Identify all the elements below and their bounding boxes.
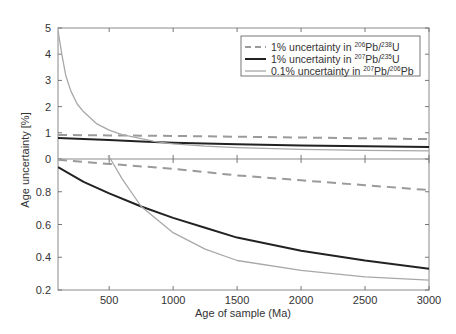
x-tick-label: 1000 [161,294,185,306]
legend: 1% uncertainty in 206Pb/238U1% uncertain… [241,36,420,77]
y-tick-label: 3 [45,74,51,86]
y-tick-label: 1 [45,127,51,139]
series-line [58,167,429,269]
y-tick-label: 0.8 [36,186,51,198]
bottom-panel-series [58,156,429,281]
x-tick-label: 3000 [417,294,441,306]
series-line [58,135,429,139]
x-tick-label: 1500 [225,294,249,306]
y-tick-label: 0.4 [36,251,51,263]
y-tick-label: 2 [45,101,51,113]
y-tick-label: 0.6 [36,219,51,231]
y-tick-label: 5 [45,22,51,34]
x-axis-title: Age of sample (Ma) [195,307,291,319]
y-axis-title: Age uncertainty [%] [19,112,31,207]
x-tick-label: 2500 [353,294,377,306]
x-tick-label: 500 [100,294,118,306]
top-panel-y-tick-labels: 012345 [45,22,51,165]
x-tick-labels: 50010001500200025003000 [100,294,441,306]
legend-label: 1% uncertainty in 206Pb/238U [271,41,400,53]
y-tick-label: 0.2 [36,284,51,296]
x-tick-label: 2000 [289,294,313,306]
bottom-panel-y-tick-labels: 0.20.40.60.8 [36,186,51,296]
age-uncertainty-chart: 012345 0.20.40.60.8 50010001500200025003… [0,0,456,334]
y-tick-label: 4 [45,48,51,60]
legend-label: 1% uncertainty in 207Pb/235U [271,53,400,65]
y-tick-label: 0 [45,153,51,165]
